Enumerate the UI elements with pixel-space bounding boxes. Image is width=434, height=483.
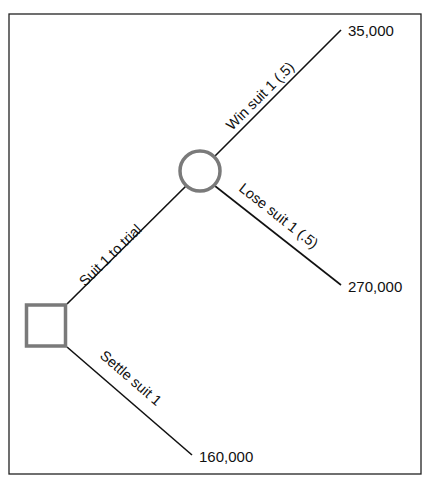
decision-tree-diagram: Suit 1 to trial Settle suit 1 Win suit 1…	[0, 0, 434, 483]
branch-win	[215, 30, 341, 156]
payoff-win: 35,000	[348, 22, 394, 39]
diagram-frame	[9, 14, 421, 474]
branch-label-trial: Suit 1 to trial	[76, 221, 145, 289]
branch-lose	[215, 186, 341, 285]
chance-node-circle	[180, 151, 220, 191]
decision-node-square	[27, 305, 66, 346]
payoff-lose: 270,000	[348, 278, 402, 295]
branch-label-win: Win suit 1 (.5)	[223, 59, 298, 134]
payoff-settle: 160,000	[199, 448, 253, 465]
branch-settle	[67, 347, 192, 455]
branch-label-lose: Lose suit 1 (.5)	[236, 180, 321, 252]
branch-label-settle: Settle suit 1	[97, 347, 165, 409]
